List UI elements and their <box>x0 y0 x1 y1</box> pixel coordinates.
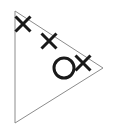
diagram-canvas <box>0 0 114 129</box>
figure-container <box>0 0 114 129</box>
